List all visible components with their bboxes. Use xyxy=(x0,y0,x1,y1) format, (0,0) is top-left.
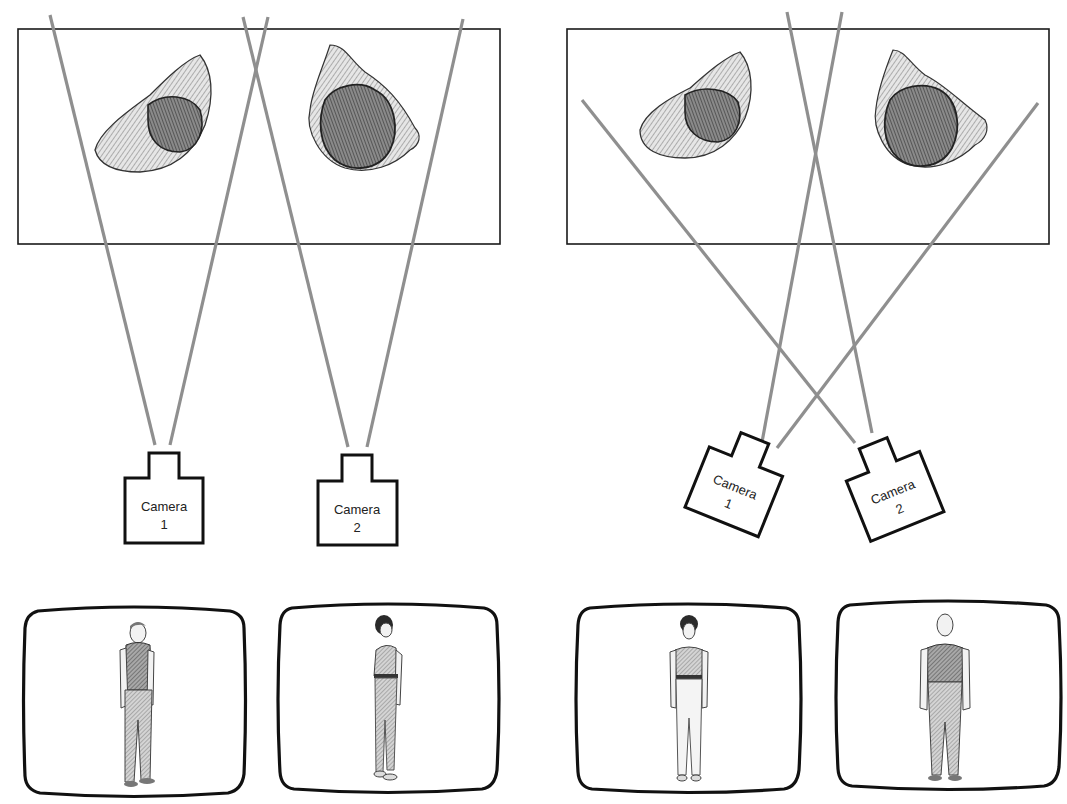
monitor-camera-2 xyxy=(278,604,499,793)
camera-2-icon: Camera 2 xyxy=(837,428,944,541)
camera-2-label-line1: Camera xyxy=(334,502,381,517)
camera-1-icon: Camera 1 xyxy=(125,453,203,543)
camera-2-icon: Camera 2 xyxy=(318,455,397,545)
monitor-camera-1 xyxy=(24,607,246,797)
camera-2-label-line2: 2 xyxy=(353,520,360,535)
monitor-camera-2 xyxy=(836,601,1061,790)
camera-1-icon: Camera 1 xyxy=(685,424,792,537)
camera-setup-diagram: Camera 1 Camera 2 xyxy=(0,0,1067,804)
monitor-camera-1 xyxy=(576,604,801,793)
camera-1-label-line2: 1 xyxy=(160,517,167,532)
panel-crossed-setup: Camera 1 Camera 2 xyxy=(567,12,1061,793)
camera-1-label-line1: Camera xyxy=(141,499,188,514)
panel-parallel-setup: Camera 1 Camera 2 xyxy=(18,15,500,797)
